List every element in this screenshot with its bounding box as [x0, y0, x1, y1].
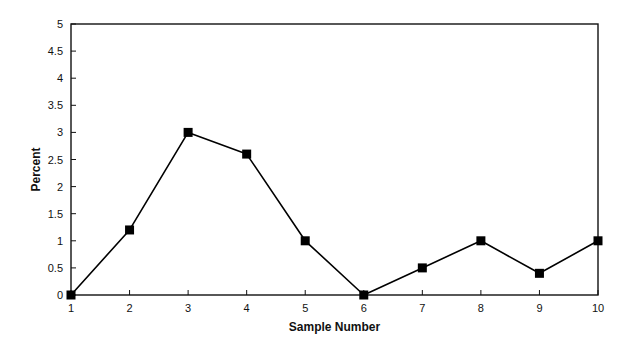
x-tick-label: 10 [592, 302, 604, 314]
y-tick-label: 5 [57, 18, 63, 30]
x-tick-label: 6 [361, 302, 367, 314]
data-point-marker [125, 225, 134, 234]
x-tick-label: 3 [185, 302, 191, 314]
data-point-marker [535, 269, 544, 278]
y-axis-title: Percent [29, 147, 43, 191]
y-tick-label: 0.5 [48, 262, 63, 274]
data-point-marker [301, 236, 310, 245]
y-tick-label: 2.5 [48, 154, 63, 166]
line-chart: 00.511.522.533.544.55 12345678910 Sample… [0, 0, 629, 346]
y-tick-label: 1.5 [48, 208, 63, 220]
x-tick-label: 5 [302, 302, 308, 314]
y-tick-label: 4 [57, 72, 63, 84]
y-tick-label: 2 [57, 181, 63, 193]
plot-frame [71, 24, 598, 295]
data-point-marker [594, 236, 603, 245]
data-point-marker [242, 150, 251, 159]
y-axis: 00.511.522.533.544.55 [48, 18, 76, 301]
y-tick-label: 3.5 [48, 99, 63, 111]
series-line [71, 132, 598, 295]
x-tick-label: 9 [536, 302, 542, 314]
x-axis: 12345678910 [68, 290, 604, 314]
y-tick-label: 1 [57, 235, 63, 247]
x-tick-label: 2 [126, 302, 132, 314]
x-axis-title: Sample Number [289, 320, 381, 334]
data-point-marker [67, 291, 76, 300]
data-point-marker [476, 236, 485, 245]
data-point-marker [184, 128, 193, 137]
y-tick-label: 3 [57, 126, 63, 138]
y-tick-label: 0 [57, 289, 63, 301]
data-point-marker [418, 263, 427, 272]
x-tick-label: 1 [68, 302, 74, 314]
x-tick-label: 8 [478, 302, 484, 314]
y-tick-label: 4.5 [48, 45, 63, 57]
x-tick-label: 7 [419, 302, 425, 314]
x-tick-label: 4 [244, 302, 250, 314]
data-point-marker [359, 291, 368, 300]
series-group [67, 128, 603, 300]
